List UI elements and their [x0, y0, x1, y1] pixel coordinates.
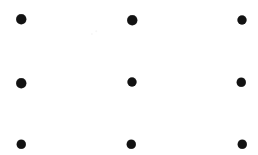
grid-dot-r1c3: [238, 16, 247, 25]
scan-speckle: [91, 33, 93, 35]
grid-dot-r2c2: [128, 78, 137, 87]
grid-dot-r3c1: [17, 140, 26, 149]
grid-dot-r2c3: [237, 78, 246, 87]
grid-dot-r2c1: [16, 78, 26, 88]
grid-dot-r1c2: [127, 15, 137, 25]
grid-dot-r3c3: [238, 140, 247, 149]
grid-dot-r1c1: [16, 14, 26, 24]
dot-grid-figure: [0, 0, 258, 155]
scan-speckle: [95, 30, 97, 32]
grid-dot-r3c2: [127, 140, 136, 149]
